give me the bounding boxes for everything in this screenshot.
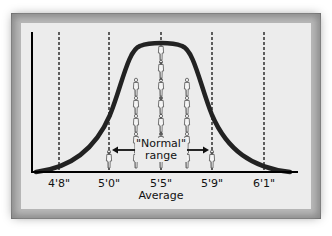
normal-range-label-line2: range — [136, 150, 186, 162]
x-tick-5ft9: 5'9" — [201, 177, 223, 190]
normal-range-label: "Normal" range — [135, 138, 187, 162]
x-tick-4ft8: 4'8" — [48, 177, 70, 190]
average-label: Average — [138, 189, 183, 202]
x-tick-6ft1: 6'1" — [253, 177, 275, 190]
x-tick-5ft0: 5'0" — [98, 177, 120, 190]
